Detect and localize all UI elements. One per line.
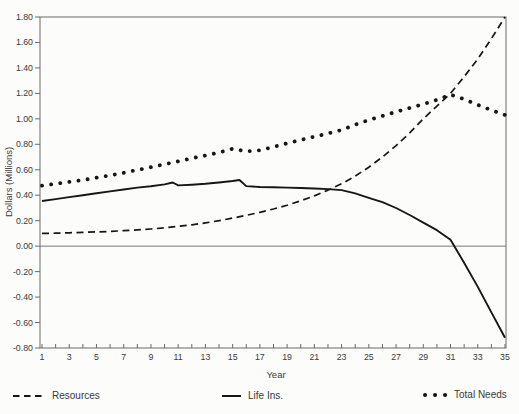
x-axis-tick-label: 21 (309, 352, 319, 362)
x-axis-tick-label: 13 (201, 352, 211, 362)
legend-label-life-ins: Life Ins. (248, 390, 283, 401)
y-axis-tick-label: 0.80 (16, 139, 33, 149)
x-axis-tick-label: 19 (282, 352, 292, 362)
y-axis-tick-label: 1.00 (16, 114, 33, 124)
series-life-ins (42, 180, 505, 338)
series-resources (42, 17, 505, 233)
y-axis-tick-label: -0.40 (13, 292, 33, 302)
x-axis-tick-label: 35 (500, 352, 510, 362)
y-axis-tick-label: 1.20 (16, 88, 33, 98)
x-axis-tick-label: 9 (148, 352, 153, 362)
x-axis-tick-label: 23 (337, 352, 347, 362)
plot-frame (40, 17, 506, 348)
plot-area: 1.801.601.401.201.000.800.600.400.200.00… (13, 12, 510, 362)
y-axis-tick-label: 0.40 (16, 190, 33, 200)
x-axis-tick-label: 11 (174, 352, 183, 362)
x-axis-tick-label: 5 (94, 352, 99, 362)
x-axis-tick-label: 17 (255, 352, 265, 362)
legend-label-resources: Resources (52, 390, 100, 401)
x-axis-tick-label: 7 (121, 352, 126, 362)
y-axis-tick-label: -0.60 (13, 318, 33, 328)
chart-figure: 1.801.601.401.201.000.800.600.400.200.00… (0, 0, 519, 414)
y-axis-tick-label: 1.80 (16, 12, 33, 22)
x-axis-tick-label: 33 (473, 352, 483, 362)
x-axis-tick-label: 31 (446, 352, 456, 362)
y-axis-tick-label: 0.00 (16, 241, 33, 251)
y-axis-title: Dollars (Millions) (3, 147, 14, 217)
x-axis-tick-label: 15 (228, 352, 238, 362)
x-axis-title: Year (266, 369, 285, 380)
y-axis-tick-label: -0.80 (13, 343, 33, 353)
legend-label-total-needs: Total Needs (454, 389, 507, 400)
y-axis-tick-label: 0.20 (16, 216, 33, 226)
x-axis-tick-label: 1 (40, 352, 45, 362)
y-axis-tick-label: 1.60 (16, 37, 33, 47)
y-axis-tick-label: 0.60 (16, 165, 33, 175)
legend: Resources Life Ins. Total Needs (13, 389, 507, 401)
x-axis-tick-label: 29 (418, 352, 428, 362)
x-axis-tick-label: 3 (67, 352, 72, 362)
x-axis-tick-label: 27 (391, 352, 401, 362)
y-axis-tick-label: 1.40 (16, 63, 33, 73)
x-axis-tick-label: 25 (364, 352, 374, 362)
line-chart: 1.801.601.401.201.000.800.600.400.200.00… (0, 0, 519, 414)
y-axis-tick-label: -0.20 (13, 267, 33, 277)
